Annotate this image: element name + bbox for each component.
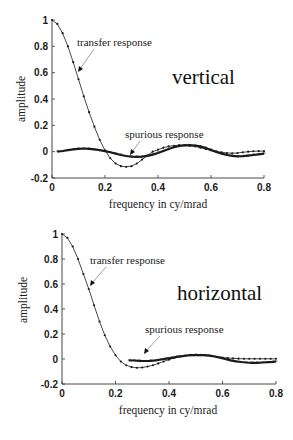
star-marker-icon: * [213,354,216,360]
x-tick-label: 0.2 [98,182,112,193]
y-tick-label: 1 [52,229,58,240]
star-marker-icon: * [252,152,255,158]
star-marker-icon: * [275,359,278,365]
x-tick-label: 0.8 [269,388,283,399]
star-marker-icon: * [224,357,227,363]
star-marker-icon: * [109,150,112,156]
y-tick-label: 0.6 [34,67,48,78]
y-tick-label: 0.6 [44,279,58,290]
annotation-transfer-response-vertical: transfer response [77,36,152,48]
x-tick-label: 0.6 [204,182,218,193]
dot-marker-icon [152,364,154,366]
dot-marker-icon [77,78,79,80]
dot-marker-icon [125,364,127,366]
star-marker-icon: * [215,149,218,155]
star-marker-icon: * [130,154,133,160]
star-marker-icon: * [133,358,136,364]
star-marker-icon: * [61,149,64,155]
star-marker-icon: * [141,154,144,160]
dot-marker-icon [120,165,122,167]
annotation-arrow-transfer-horizontal [92,267,106,283]
star-marker-icon: * [176,354,179,360]
dot-marker-icon [130,165,132,167]
dot-marker-icon [56,23,58,25]
panel-title-horizontal: horizontal [177,281,262,305]
star-marker-icon: * [204,145,207,151]
star-marker-icon: * [127,358,130,364]
dot-marker-icon [88,288,90,290]
star-marker-icon: * [229,358,232,364]
star-marker-icon: * [119,152,122,158]
annotation-transfer-response-horizontal: transfer response [90,254,165,266]
y-tick-label: 0.2 [34,120,48,131]
star-marker-icon: * [263,151,266,157]
x-tick-label: 0.6 [216,388,230,399]
star-marker-icon: * [225,152,228,158]
star-marker-icon: * [266,360,269,366]
dot-marker-icon [83,95,85,97]
star-marker-icon: * [162,149,165,155]
chart-vertical: -0.200.20.40.60.8100.20.40.60.8 ********… [15,15,271,212]
star-marker-icon: * [181,354,184,360]
star-marker-icon: * [218,355,221,361]
dot-marker-icon [114,354,116,356]
dot-marker-icon [62,32,64,34]
star-marker-icon: * [208,353,211,359]
chart-horizontal: -0.200.20.40.60.8100.20.40.60.8 ********… [17,229,283,418]
y-tick-label: 0 [42,146,48,157]
dot-marker-icon [125,166,127,168]
star-marker-icon: * [178,144,181,150]
y-tick-label: 0.4 [44,304,58,315]
y-axis-label-vertical: amplitude [15,76,28,122]
x-tick-label: 0.8 [257,182,271,193]
dot-marker-icon [61,233,63,235]
dot-marker-icon [88,111,90,113]
dot-marker-icon [93,304,95,306]
dot-marker-icon [115,162,117,164]
star-marker-icon: * [245,360,248,366]
star-marker-icon: * [159,357,162,363]
x-axis-label-horizontal: frequency in cy/mrad [119,404,218,417]
star-marker-icon: * [138,358,141,364]
y-tick-label: 0.8 [44,254,58,265]
y-axis-label-horizontal: amplitude [17,277,30,323]
dot-marker-icon [72,61,74,63]
annotation-spurious-response-horizontal: spurious response [145,323,224,335]
dot-marker-icon [67,45,69,47]
y-tick-label: 0.8 [34,41,48,52]
x-tick-label: 0.2 [109,388,123,399]
y-tick-label: 0.2 [44,329,58,340]
star-marker-icon: * [135,154,138,160]
dot-marker-icon [77,258,79,260]
star-marker-icon: * [167,147,170,153]
annotation-spurious-response-vertical: spurious response [125,128,204,140]
star-marker-icon: * [234,359,237,365]
star-marker-icon: * [257,152,260,158]
y-tick-label: -0.2 [31,173,49,184]
star-marker-icon: * [157,150,160,156]
star-marker-icon: * [261,360,264,366]
dot-marker-icon [93,126,95,128]
arrowhead-icon [78,66,83,72]
star-marker-icon: * [199,144,202,150]
star-marker-icon: * [104,149,107,155]
star-marker-icon: * [236,154,239,160]
dot-marker-icon [51,19,53,21]
y-tick-label: 0.4 [34,94,48,105]
star-marker-icon: * [125,154,128,160]
star-marker-icon: * [188,143,191,149]
figure-canvas: -0.200.20.40.60.8100.20.40.60.8 ********… [0,0,293,440]
annotation-arrow-transfer-vertical [80,49,94,69]
star-marker-icon: * [240,360,243,366]
y-tick-label: -0.2 [41,379,59,390]
dot-marker-icon [136,162,138,164]
x-tick-label: 0.4 [151,182,165,193]
star-marker-icon: * [194,143,197,149]
y-tick-label: 1 [42,15,48,26]
star-marker-icon: * [88,146,91,152]
star-marker-icon: * [149,358,152,364]
star-marker-icon: * [172,145,175,151]
star-marker-icon: * [56,149,59,155]
star-marker-icon: * [183,143,186,149]
star-marker-icon: * [93,147,96,153]
